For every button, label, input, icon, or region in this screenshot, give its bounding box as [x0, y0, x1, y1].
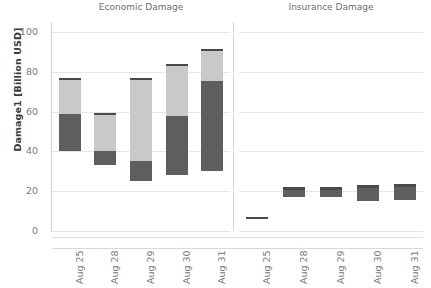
bar-cap: [246, 217, 268, 219]
bar-economic-damage-aug-25[interactable]: [59, 78, 81, 152]
x-axis-tick-label: Aug 25: [74, 224, 85, 284]
y-axis-tick-label: 80: [0, 66, 38, 77]
bar-cap: [201, 49, 223, 52]
bar-insurance-damage-aug-29[interactable]: [320, 187, 342, 197]
bar-cap: [130, 78, 152, 81]
bar-economic-damage-aug-28[interactable]: [94, 113, 116, 166]
bar-segment-lower: [94, 151, 116, 165]
bar-cap: [357, 185, 379, 188]
x-axis-line: [52, 248, 423, 249]
bar-cap: [394, 184, 416, 187]
bar-segment-lower: [59, 114, 81, 152]
bar-segment-upper: [130, 78, 152, 162]
bar-segment-lower: [201, 81, 223, 172]
bar-segment-lower: [166, 116, 188, 176]
y-axis-tick-label: 20: [0, 185, 38, 196]
panel-title-economic: Economic Damage: [52, 2, 230, 12]
panel-economic-damage: Economic Damage: [52, 22, 230, 231]
y-axis-tick-labels: 020406080100: [0, 0, 46, 288]
x-axis-tick-label: Aug 31: [216, 224, 227, 284]
panel-title-insurance: Insurance Damage: [239, 2, 423, 12]
y-axis-tick-label: 100: [0, 26, 38, 37]
y-axis-tick-label: 0: [0, 225, 38, 236]
x-axis-tick-label: Aug 25: [261, 224, 272, 284]
x-axis-tick-label: Aug 31: [409, 224, 420, 284]
y-axis-tick-label: 40: [0, 145, 38, 156]
y-axis-tick-label: 60: [0, 106, 38, 117]
x-axis-tick-label: Aug 29: [335, 224, 346, 284]
bar-insurance-damage-aug-30[interactable]: [357, 185, 379, 201]
bar-economic-damage-aug-29[interactable]: [130, 78, 152, 182]
gridline: [52, 32, 230, 33]
x-axis-tick-label: Aug 29: [145, 224, 156, 284]
bar-segment-lower: [394, 185, 416, 200]
x-axis-tick-label: Aug 30: [372, 224, 383, 284]
gridline: [239, 32, 423, 33]
bar-economic-damage-aug-31[interactable]: [201, 49, 223, 171]
bar-cap: [283, 187, 305, 190]
bar-insurance-damage-aug-25[interactable]: [246, 217, 268, 219]
bar-cap: [320, 187, 342, 190]
bar-segment-upper: [94, 113, 116, 152]
bar-cap: [59, 78, 81, 81]
bar-cap: [94, 113, 116, 116]
bar-insurance-damage-aug-28[interactable]: [283, 187, 305, 197]
panel-insurance-damage: Insurance Damage: [239, 22, 423, 231]
x-axis-tick-label: Aug 28: [109, 224, 120, 284]
bar-segment-lower: [357, 186, 379, 201]
x-axis-tick-label: Aug 28: [298, 224, 309, 284]
bar-segment-upper: [166, 64, 188, 116]
bar-segment-lower: [130, 161, 152, 181]
bar-economic-damage-aug-30[interactable]: [166, 64, 188, 175]
gridline: [239, 151, 423, 152]
bar-segment-upper: [201, 49, 223, 81]
bar-insurance-damage-aug-31[interactable]: [394, 184, 416, 200]
gridline: [52, 191, 230, 192]
gridline: [239, 72, 423, 73]
x-axis-top-line: [52, 237, 423, 238]
bar-segment-upper: [59, 78, 81, 114]
x-axis-tick-label: Aug 30: [181, 224, 192, 284]
chart-container: Damage1 [Billion USD] 020406080100 Econo…: [0, 0, 431, 288]
plot-area: Economic Damage Insurance Damage: [52, 22, 423, 231]
gridline: [239, 112, 423, 113]
bar-cap: [166, 64, 188, 67]
